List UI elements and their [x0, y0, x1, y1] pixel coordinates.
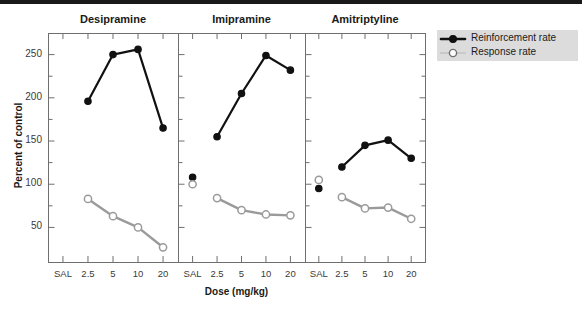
- series-line-response-rate: [88, 199, 163, 247]
- data-point-response-rate: [287, 212, 294, 219]
- series-line-reinforcement-rate: [217, 55, 290, 136]
- data-point-reinforcement-rate: [110, 51, 116, 57]
- data-point-reinforcement-rate: [85, 98, 91, 104]
- data-point-response-rate: [262, 211, 269, 218]
- data-point-response-rate: [238, 207, 245, 214]
- data-point-response-rate: [109, 213, 116, 220]
- data-point-reinforcement-rate: [160, 125, 166, 131]
- data-point-response-rate: [315, 176, 322, 183]
- y-tick-label: 100: [4, 177, 42, 188]
- data-point-response-rate: [408, 215, 415, 222]
- data-point-response-rate: [134, 224, 141, 231]
- series-line-reinforcement-rate: [88, 49, 163, 128]
- data-point-reinforcement-rate: [214, 133, 220, 139]
- data-point-reinforcement-rate: [135, 46, 141, 52]
- series-line-response-rate: [342, 197, 411, 219]
- y-tick-label: 200: [4, 91, 42, 102]
- y-tick-label: 50: [4, 220, 42, 231]
- data-point-reinforcement-rate: [362, 142, 368, 148]
- data-point-response-rate: [213, 194, 220, 201]
- series-line-response-rate: [217, 198, 290, 215]
- panel-title-amitriptyline: Amitriptyline: [285, 13, 445, 25]
- y-tick-label: 250: [4, 48, 42, 59]
- data-point-response-rate: [338, 194, 345, 201]
- data-point-reinforcement-rate: [316, 185, 322, 191]
- data-point-response-rate: [361, 205, 368, 212]
- data-point-reinforcement-rate: [263, 52, 269, 58]
- data-point-response-rate: [189, 181, 196, 188]
- x-axis-title: Dose (mg/kg): [137, 286, 337, 297]
- figure-container: Percent of control Dose (mg/kg) 50100150…: [0, 0, 582, 310]
- y-tick-label: 150: [4, 134, 42, 145]
- legend-label-response-rate: Response rate: [471, 46, 536, 57]
- series-line-reinforcement-rate: [342, 140, 411, 167]
- data-point-reinforcement-rate: [339, 164, 345, 170]
- legend-label-reinforcement-rate: Reinforcement rate: [471, 32, 556, 43]
- data-point-response-rate: [84, 195, 91, 202]
- data-point-reinforcement-rate: [385, 137, 391, 143]
- data-point-reinforcement-rate: [408, 155, 414, 161]
- data-point-response-rate: [385, 204, 392, 211]
- x-tick-label: 20: [391, 268, 431, 279]
- data-point-reinforcement-rate: [287, 67, 293, 73]
- data-point-reinforcement-rate: [238, 90, 244, 96]
- data-point-reinforcement-rate: [189, 174, 195, 180]
- data-point-response-rate: [159, 244, 166, 251]
